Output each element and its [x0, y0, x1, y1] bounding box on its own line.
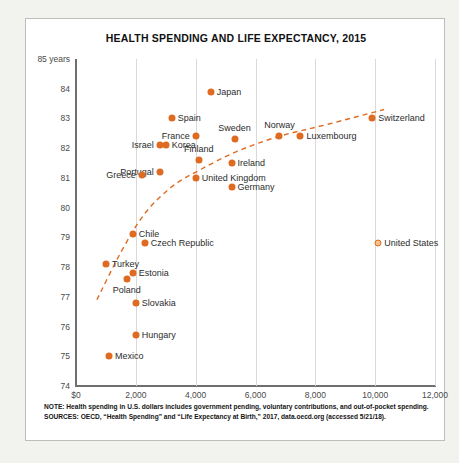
data-point-germany[interactable]	[228, 183, 235, 190]
gridline	[315, 59, 316, 386]
data-point-spain[interactable]	[168, 115, 175, 122]
data-point-label: Ireland	[238, 158, 266, 168]
data-point-label: Finland	[184, 144, 214, 154]
note-text: NOTE: Health spending in U.S. dollars in…	[44, 402, 430, 412]
gridline	[375, 59, 376, 386]
data-point-label: Estonia	[139, 268, 169, 278]
y-tick-label: 75	[18, 351, 76, 361]
y-tick-label: 85 years	[18, 54, 76, 64]
y-tick-label: 77	[18, 292, 76, 302]
data-point-poland[interactable]	[123, 275, 130, 282]
data-point-label: Norway	[264, 120, 295, 130]
x-tick-label: 2,000	[125, 390, 146, 400]
x-tick-label: 12,000	[422, 390, 448, 400]
data-point-label: Sweden	[218, 123, 251, 133]
data-point-greece[interactable]	[138, 171, 145, 178]
x-tick-label: $0	[71, 390, 80, 400]
chart-card: HEALTH SPENDING AND LIFE EXPECTANCY, 201…	[25, 18, 445, 441]
data-point-label: Spain	[178, 113, 201, 123]
chart-footnotes: NOTE: Health spending in U.S. dollars in…	[44, 402, 430, 421]
x-tick-label: 4,000	[185, 390, 206, 400]
gridline	[435, 59, 436, 386]
gridline	[196, 59, 197, 386]
plot-area: 85 years8483828180797877767574 $02,0004,…	[76, 59, 435, 386]
data-point-label: United States	[384, 238, 438, 248]
data-point-label: Slovakia	[142, 298, 176, 308]
data-point-czech-republic[interactable]	[141, 240, 148, 247]
data-point-mexico[interactable]	[105, 353, 112, 360]
x-tick-label: 8,000	[305, 390, 326, 400]
data-point-label: Germany	[238, 182, 275, 192]
sources-text: SOURCES: OECD, “Health Spending” and “Li…	[44, 412, 430, 422]
y-tick-label: 76	[18, 322, 76, 332]
data-point-chile[interactable]	[129, 231, 136, 238]
data-point-portugal[interactable]	[156, 168, 163, 175]
data-point-label: Mexico	[115, 351, 144, 361]
data-point-turkey[interactable]	[102, 261, 109, 268]
data-point-label: Luxembourg	[306, 131, 356, 141]
data-point-label: Turkey	[112, 259, 139, 269]
data-point-label: Japan	[217, 87, 242, 97]
data-point-sweden[interactable]	[231, 136, 238, 143]
data-point-label: Poland	[113, 285, 141, 295]
data-point-france[interactable]	[192, 133, 199, 140]
data-point-label: Israel	[132, 140, 154, 150]
y-tick-label: 81	[18, 173, 76, 183]
data-point-hungary[interactable]	[132, 332, 139, 339]
data-point-label: Greece	[106, 170, 136, 180]
data-point-ireland[interactable]	[228, 160, 235, 167]
y-tick-label: 80	[18, 203, 76, 213]
y-tick-label: 79	[18, 232, 76, 242]
data-point-norway[interactable]	[276, 133, 283, 140]
data-point-japan[interactable]	[207, 88, 214, 95]
y-tick-label: 83	[18, 113, 76, 123]
data-point-estonia[interactable]	[129, 270, 136, 277]
x-tick-label: 6,000	[245, 390, 266, 400]
data-point-korea[interactable]	[162, 142, 169, 149]
y-axis-line	[75, 59, 77, 386]
data-point-finland[interactable]	[195, 157, 202, 164]
data-point-luxembourg[interactable]	[297, 133, 304, 140]
chart-title: HEALTH SPENDING AND LIFE EXPECTANCY, 201…	[26, 32, 446, 44]
data-point-label: Hungary	[142, 330, 176, 340]
y-tick-label: 84	[18, 84, 76, 94]
data-point-united-states[interactable]	[375, 240, 382, 247]
cropped-caption-artifact	[6, 452, 446, 461]
y-tick-label: 74	[18, 381, 76, 391]
data-point-label: Czech Republic	[151, 238, 214, 248]
y-tick-label: 82	[18, 143, 76, 153]
x-tick-label: 10,000	[362, 390, 388, 400]
gridline	[256, 59, 257, 386]
data-point-united-kingdom[interactable]	[192, 174, 199, 181]
data-point-slovakia[interactable]	[132, 299, 139, 306]
data-point-label: Switzerland	[378, 113, 425, 123]
y-tick-label: 78	[18, 262, 76, 272]
data-point-switzerland[interactable]	[369, 115, 376, 122]
